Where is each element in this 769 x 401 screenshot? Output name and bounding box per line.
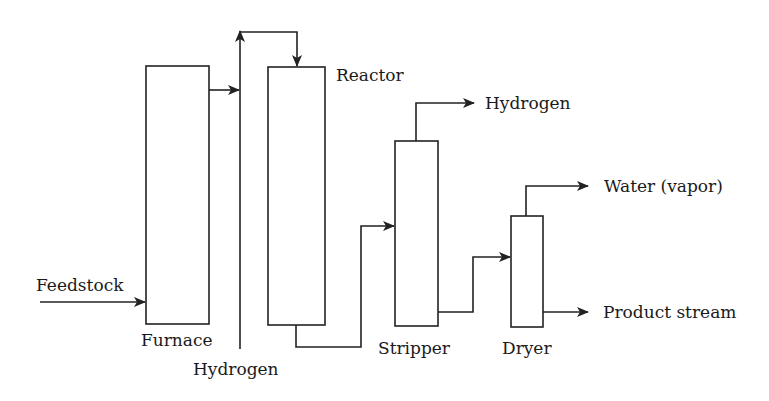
hydrogen-out-arrow (416, 103, 474, 141)
dryer-unit (511, 216, 543, 327)
reactor-unit (268, 67, 325, 325)
feedstock-label: Feedstock (36, 275, 124, 295)
stripper-unit (395, 141, 438, 326)
water-vapor-arrow (526, 186, 588, 216)
hydrogen-in-label: Hydrogen (193, 359, 279, 379)
process-flow-diagram: Furnace Feedstock Hydrogen Reactor Strip… (0, 0, 769, 401)
stripper-label: Stripper (378, 338, 451, 358)
stripper-to-dryer-arrow (438, 257, 510, 312)
dryer-label: Dryer (502, 338, 552, 358)
product-stream-label: Product stream (603, 302, 736, 322)
hydrogen-out-label: Hydrogen (485, 93, 571, 113)
reactor-inlet-arrow (240, 32, 297, 66)
water-vapor-label: Water (vapor) (604, 176, 723, 196)
furnace-label: Furnace (141, 330, 213, 350)
reactor-label: Reactor (336, 65, 405, 85)
furnace-unit (146, 66, 209, 324)
